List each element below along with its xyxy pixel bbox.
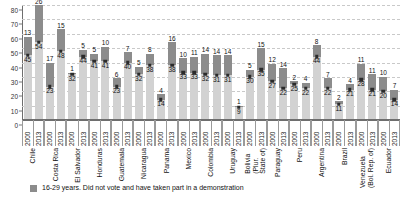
year-tick-row: 20002013 bbox=[22, 120, 44, 146]
bar-stack: 838 bbox=[146, 54, 154, 120]
bar-2000[interactable]: 623 bbox=[111, 5, 122, 120]
bar-2013[interactable]: 1133 bbox=[189, 5, 200, 120]
bar-2013[interactable]: 421 bbox=[344, 5, 355, 120]
tick-separator bbox=[211, 120, 212, 146]
bar-2000[interactable]: 132 bbox=[66, 5, 77, 120]
data-point-marker bbox=[37, 41, 41, 45]
bar-value-label-upper: 5 bbox=[137, 59, 141, 66]
year-tick-cell: 2000 bbox=[222, 120, 233, 146]
bar-stack: 1345 bbox=[24, 37, 32, 120]
country-group-nicaragua: 532838 bbox=[133, 5, 155, 120]
bar-2000[interactable]: 211 bbox=[333, 5, 344, 120]
year-label: 2000 bbox=[224, 120, 231, 146]
bar-2000[interactable]: 530 bbox=[244, 5, 255, 120]
bar-value-label-upper: 17 bbox=[46, 55, 53, 62]
bar-2013[interactable]: 544 bbox=[78, 5, 89, 120]
bar-2013[interactable]: 1431 bbox=[211, 5, 222, 120]
tick-separator bbox=[378, 120, 379, 146]
tick-separator bbox=[367, 120, 368, 146]
bar-stack: 1431 bbox=[213, 55, 221, 120]
bar-2013[interactable]: 1535 bbox=[255, 5, 266, 120]
year-label: 2013 bbox=[258, 120, 265, 146]
year-label: 2013 bbox=[35, 120, 42, 146]
bar-2000[interactable]: 1431 bbox=[222, 5, 233, 120]
year-label: 2013 bbox=[347, 120, 354, 146]
x-axis-group: 20002013Mexico bbox=[178, 120, 200, 178]
year-tick-cell: 2013 bbox=[100, 120, 111, 146]
bar-2000[interactable]: 1128 bbox=[356, 5, 367, 120]
bar-2000[interactable]: 1723 bbox=[44, 5, 55, 120]
bar-segment-upper bbox=[279, 68, 287, 88]
data-point-marker bbox=[293, 82, 297, 86]
bar-2000[interactable]: 1345 bbox=[22, 5, 33, 120]
bar-value-label-upper: 4 bbox=[348, 77, 352, 84]
bar-2000[interactable]: 541 bbox=[89, 5, 100, 120]
bar-segment-lower bbox=[257, 70, 265, 120]
data-point-marker bbox=[70, 72, 74, 76]
year-tick-row: 20002013 bbox=[66, 120, 88, 146]
year-label: 2013 bbox=[391, 120, 398, 146]
bar-2000[interactable]: 1227 bbox=[267, 5, 278, 120]
country-label: Ecuador bbox=[385, 148, 393, 173]
tick-separator bbox=[267, 120, 268, 146]
bar-2013[interactable]: 1121 bbox=[367, 5, 378, 120]
data-point-marker bbox=[137, 72, 141, 76]
year-label: 2000 bbox=[380, 120, 387, 146]
year-label: 2013 bbox=[235, 120, 242, 146]
bar-2013[interactable]: 1638 bbox=[167, 5, 178, 120]
bar-stack: 19 bbox=[235, 106, 243, 120]
country-group-peru: 225422 bbox=[289, 5, 311, 120]
country-label: Panama bbox=[163, 148, 171, 173]
y-axis: 01020304050607080 bbox=[0, 5, 22, 120]
year-tick-row: 20002013 bbox=[178, 120, 200, 146]
bar-stack: 1535 bbox=[257, 48, 265, 120]
year-tick-cell: 2013 bbox=[233, 120, 244, 146]
data-point-marker bbox=[81, 55, 85, 59]
year-label: 2000 bbox=[91, 120, 98, 146]
country-group-ecuador: 1020714 bbox=[378, 5, 400, 120]
bar-2000[interactable]: 1020 bbox=[378, 5, 389, 120]
year-label: 2013 bbox=[57, 120, 64, 146]
bar-2013[interactable]: 1422 bbox=[278, 5, 289, 120]
bar-2013[interactable]: 1548 bbox=[55, 5, 66, 120]
bar-2013[interactable]: 1041 bbox=[100, 5, 111, 120]
country-group-panama: 4141638 bbox=[155, 5, 177, 120]
tick-separator bbox=[78, 120, 79, 146]
x-axis-group: 20002013Brazil bbox=[333, 120, 355, 178]
bar-2013[interactable]: 838 bbox=[144, 5, 155, 120]
bar-segment-lower bbox=[79, 57, 87, 120]
bar-2000[interactable]: 414 bbox=[155, 5, 166, 120]
country-label: Mexico bbox=[185, 148, 193, 170]
bar-2000[interactable]: 225 bbox=[289, 5, 300, 120]
bar-2013[interactable]: 740 bbox=[122, 5, 133, 120]
bar-stack: 541 bbox=[90, 54, 98, 120]
bar-2013[interactable]: 714 bbox=[389, 5, 400, 120]
x-axis-group: 20002013Peru bbox=[289, 120, 311, 178]
bar-2013[interactable]: 722 bbox=[322, 5, 333, 120]
bar-2000[interactable]: 844 bbox=[311, 5, 322, 120]
data-point-marker bbox=[159, 98, 163, 102]
bar-segment-lower bbox=[35, 42, 43, 120]
y-axis-tick-label: 50 bbox=[11, 50, 18, 57]
x-axis-group: 20002013Costa Rica bbox=[44, 120, 66, 178]
data-point-marker bbox=[93, 59, 97, 63]
bar-2000[interactable]: 1432 bbox=[200, 5, 211, 120]
bar-value-label-upper: 14 bbox=[280, 61, 287, 68]
bar-2013[interactable]: 19 bbox=[233, 5, 244, 120]
plot-area: 1345265417231548132544541104162374053283… bbox=[22, 5, 400, 120]
tick-separator bbox=[389, 120, 390, 146]
x-axis-group: 20002013Venezuela (Bol. Rep. of) bbox=[356, 120, 378, 178]
year-label: 2013 bbox=[146, 120, 153, 146]
country-label: Costa Rica bbox=[52, 148, 60, 181]
bar-2000[interactable]: 532 bbox=[133, 5, 144, 120]
bar-2013[interactable]: 2654 bbox=[33, 5, 44, 120]
bar-2000[interactable]: 1033 bbox=[178, 5, 189, 120]
data-point-marker bbox=[337, 102, 341, 106]
year-label: 2000 bbox=[246, 120, 253, 146]
bar-value-label-upper: 10 bbox=[102, 39, 109, 46]
year-tick-cell: 2000 bbox=[356, 120, 367, 146]
year-tick-cell: 2013 bbox=[211, 120, 222, 146]
bar-2013[interactable]: 422 bbox=[300, 5, 311, 120]
tick-separator bbox=[189, 120, 190, 146]
chart-legend: 16-29 years. Did not vote and have taken… bbox=[30, 184, 244, 192]
